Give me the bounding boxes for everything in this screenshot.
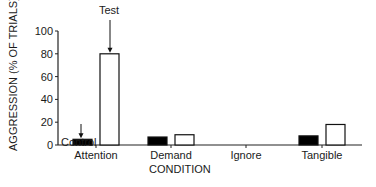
x-tick-label: Demand [150, 149, 192, 161]
test-bar [175, 135, 194, 145]
bar-chart: 020406080100AttentionDemandIgnoreTangibl… [0, 0, 376, 187]
control-bar [299, 136, 318, 145]
y-axis-label: AGGRESSION (% OF TRIALS) [7, 21, 19, 151]
y-tick-label: 100 [35, 25, 53, 37]
test-arrow-icon-head [108, 48, 113, 53]
annotation-test: Test [99, 4, 119, 16]
x-axis-label: CONDITION [149, 163, 211, 175]
x-tick-label: Ignore [230, 149, 261, 161]
x-tick-label: Attention [74, 149, 117, 161]
test-bar [100, 54, 119, 145]
annotation-control: Control [61, 136, 96, 148]
y-tick-label: 40 [41, 93, 53, 105]
y-tick-label: 60 [41, 71, 53, 83]
y-tick-label: 0 [47, 139, 53, 151]
test-bar [326, 124, 345, 145]
control-bar [148, 137, 167, 145]
y-tick-label: 20 [41, 116, 53, 128]
y-tick-label: 80 [41, 48, 53, 60]
x-tick-label: Tangible [302, 149, 343, 161]
